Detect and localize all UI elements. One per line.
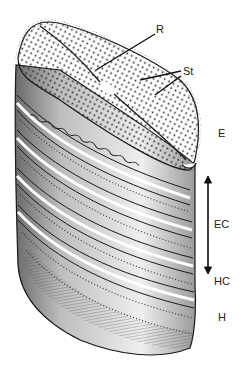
epicingulum-double-arrow: [205, 176, 212, 274]
label-hypocingulum: HC: [214, 276, 230, 287]
label-epicingulum: EC: [214, 219, 229, 230]
label-raphe: R: [156, 24, 164, 35]
label-striae: St: [183, 66, 193, 77]
label-hypovalve: H: [218, 312, 226, 323]
diatom-frustule-illustration: [0, 0, 246, 366]
label-epivalve: E: [218, 128, 225, 139]
